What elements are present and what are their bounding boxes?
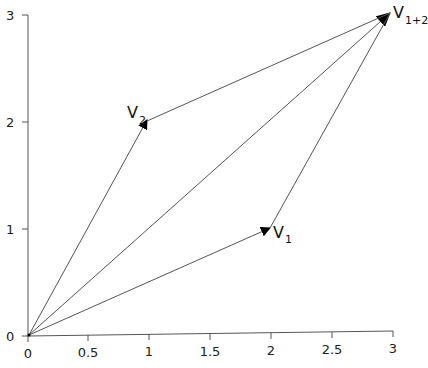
origin-point [28, 334, 31, 337]
x-tick-label: 2 [267, 343, 275, 358]
v12-label-sub: 1+2 [405, 14, 428, 27]
v1-label-main: V [273, 223, 284, 242]
x-tick-label: 3 [389, 341, 397, 356]
vector-label-v1: V 1 [273, 223, 292, 246]
x-axis: 0 0.5 1 1.5 2 2.5 3 [24, 331, 397, 361]
v2-label-sub: 2 [139, 114, 146, 127]
vector-label-v1-plus-v2: V 1+2 [393, 3, 428, 27]
x-tick-label: 0.5 [78, 345, 99, 360]
vector-v2-shifted [270, 13, 390, 228]
y-tick-label: 3 [6, 8, 14, 23]
x-tick-label: 0 [24, 346, 32, 361]
x-tick-label: 2.5 [322, 342, 343, 357]
x-tick-label: 1.5 [200, 344, 221, 359]
vector-v1-shifted [147, 13, 390, 121]
vector-label-v2: V 2 [127, 103, 146, 127]
vector-v2 [29, 120, 147, 335]
v12-label-main: V [393, 3, 404, 22]
v2-label-main: V [127, 103, 138, 122]
vector-v1 [29, 228, 270, 335]
y-tick-label: 1 [6, 222, 14, 237]
vectors [28, 13, 391, 337]
vector-v1-plus-v2 [29, 13, 390, 335]
y-axis: 3 2 1 0 [6, 8, 28, 344]
x-tick-label: 1 [145, 344, 153, 359]
y-tick-label: 0 [6, 329, 14, 344]
vector-addition-diagram: 3 2 1 0 0 0.5 1 1.5 2 2.5 3 V 1 V 2 [0, 0, 428, 368]
v1-label-sub: 1 [285, 233, 292, 246]
y-tick-label: 2 [6, 115, 14, 130]
